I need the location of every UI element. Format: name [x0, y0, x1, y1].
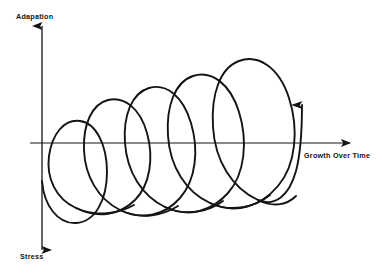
axis-label-growth-over-time: Growth Over Time [304, 152, 370, 159]
diagram-canvas [0, 0, 387, 275]
spiral-loop-3 [120, 87, 223, 216]
axis-label-adaptation: Adapation [16, 13, 53, 20]
spiral-helix [42, 59, 302, 223]
spiral-end-arrow [258, 105, 302, 202]
spiral-growth-figure: Adapation Stress Growth Over Time [0, 0, 387, 275]
spiral-loop-5 [210, 59, 296, 208]
axis-label-stress: Stress [20, 253, 43, 260]
